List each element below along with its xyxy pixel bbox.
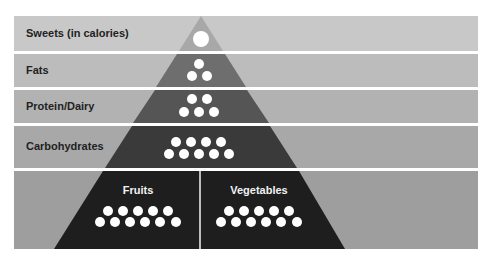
row-divider bbox=[14, 87, 478, 90]
pyramid-section-protein-dairy bbox=[133, 90, 269, 123]
row-divider bbox=[14, 51, 478, 54]
pyramid-graphic bbox=[0, 0, 495, 261]
row-divider bbox=[14, 123, 478, 126]
sub-label-fruits: Fruits bbox=[88, 184, 188, 196]
sub-label-vegetables: Vegetables bbox=[209, 184, 309, 196]
row-divider bbox=[14, 168, 478, 171]
pyramid-section-fats bbox=[156, 54, 246, 87]
servings-dots-sweets bbox=[193, 31, 209, 47]
pyramid-section-carbohydrates bbox=[105, 126, 297, 168]
